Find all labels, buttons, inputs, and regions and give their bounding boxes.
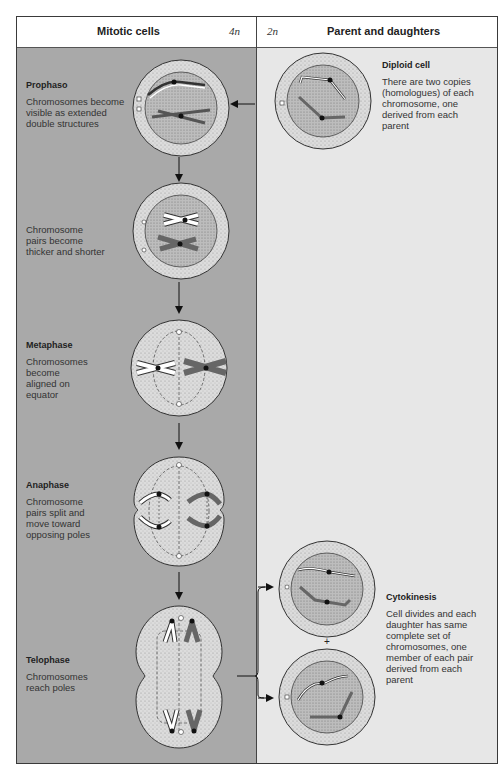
metaphase-label: Metaphase Chromosomes become aligned on … — [26, 340, 86, 400]
stage-title: Metaphase — [26, 340, 86, 351]
anaphase-label: Anaphase Chromosome pairs split and move… — [26, 480, 106, 540]
telophase-label: Telophase Chromosomes reach poles — [26, 655, 91, 693]
stage-description: Chromosomes become visible as extended d… — [26, 96, 126, 129]
daughter-cell-1 — [279, 541, 375, 637]
daughter-cell-2 — [279, 649, 375, 745]
daughters-title: Cytokinesis — [386, 592, 486, 603]
prophase-cell — [133, 60, 229, 156]
stage-description: Chromosomes reach poles — [26, 671, 91, 693]
cytokinesis-bracket — [237, 587, 272, 698]
telophase-cell — [136, 606, 222, 748]
diploid-cell-label: Diploid cell There are two copies (homol… — [382, 60, 487, 131]
stage-title: Telophase — [26, 655, 91, 666]
late-prophase-cell — [133, 183, 229, 279]
stage-description: Chromosomes become aligned on equator — [26, 356, 86, 400]
parent-title: Diploid cell — [382, 60, 487, 71]
daughters-description: Cell divides and each daughter has same … — [386, 608, 486, 685]
stage-title: Anaphase — [26, 480, 106, 491]
stage-title: Prophaso — [26, 80, 126, 91]
parent-description: There are two copies (homologues) of eac… — [382, 76, 487, 131]
stage-description: Chromosome pairs split and move toward o… — [26, 496, 106, 540]
plus-sign: + — [324, 636, 330, 647]
anaphase-cell — [134, 457, 224, 566]
late-prophase-label: Chromosome pairs become thicker and shor… — [26, 224, 106, 257]
prophase-label: Prophaso Chromosomes become visible as e… — [26, 80, 126, 129]
metaphase-cell — [131, 320, 227, 416]
stage-description: Chromosome pairs become thicker and shor… — [26, 224, 106, 257]
cytokinesis-label: Cytokinesis Cell divides and each daught… — [386, 592, 486, 685]
diploid-parent-cell — [275, 53, 371, 149]
